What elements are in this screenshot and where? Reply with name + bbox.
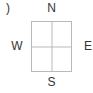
compass-grid-figure: ) N W E S	[0, 0, 93, 93]
compass-label-east: E	[84, 39, 93, 53]
grid-square	[31, 21, 72, 72]
compass-label-south: S	[31, 75, 72, 89]
grid-divider-horizontal	[32, 46, 71, 47]
panel-label: )	[0, 0, 10, 16]
compass-label-west: W	[9, 39, 25, 53]
compass-label-north: N	[31, 1, 72, 15]
